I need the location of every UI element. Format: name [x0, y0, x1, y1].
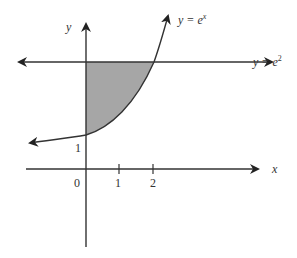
line-e2-label-exponent: 2: [278, 54, 282, 63]
x-axis-label: x: [272, 163, 277, 175]
shaded-region: [86, 62, 154, 135]
line-e2-label: y = e2: [253, 56, 282, 68]
line-e2-label-base: y = e: [253, 55, 278, 69]
x-tick-label-2: 2: [150, 177, 156, 189]
diagram-svg: [0, 0, 297, 258]
origin-label: 0: [74, 177, 80, 189]
y-axis-label: y: [66, 21, 71, 33]
x-tick-label-1: 1: [115, 177, 121, 189]
curve-exp-label-base: y = e: [178, 13, 203, 27]
curve-exp-label: y = ex: [178, 14, 206, 26]
diagram-canvas: y x 0 1 2 1 y = ex y = e2: [0, 0, 297, 258]
y-tick-label-1: 1: [75, 142, 81, 154]
curve-exp-label-exponent: x: [203, 12, 207, 21]
